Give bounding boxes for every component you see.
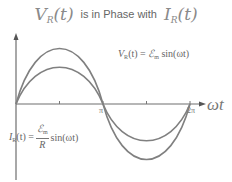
voltage-equation: VR(t) = ℰm sin(ωt) bbox=[118, 48, 189, 60]
tick-label-two-pi: 2π bbox=[187, 106, 195, 115]
x-axis-arrow-icon bbox=[199, 102, 206, 107]
fraction: ℰm R bbox=[36, 123, 49, 151]
current-equation: IR(t) = ℰm R sin(ωt) bbox=[9, 123, 78, 151]
y-axis-arrow-icon bbox=[14, 33, 19, 40]
sine-plot bbox=[0, 0, 232, 182]
tick-label-pi: π bbox=[99, 106, 103, 115]
x-axis-label: ωt bbox=[207, 95, 224, 115]
